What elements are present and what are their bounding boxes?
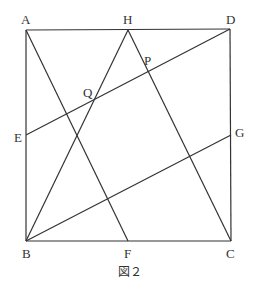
label-a: A xyxy=(21,12,31,27)
geometry-figure: A H D P Q E G B F C 図２ xyxy=(0,0,255,293)
square-abcd xyxy=(26,29,231,241)
label-c: C xyxy=(226,246,235,261)
label-q: Q xyxy=(83,85,93,100)
figure-caption: 図２ xyxy=(118,265,142,279)
label-b: B xyxy=(22,246,31,261)
label-d: D xyxy=(226,12,235,27)
label-p: P xyxy=(144,53,151,68)
label-e: E xyxy=(14,130,22,145)
label-f: F xyxy=(124,246,131,261)
label-g: G xyxy=(235,125,244,140)
segment-ed xyxy=(26,29,230,135)
segment-bg xyxy=(26,135,231,241)
label-h: H xyxy=(123,12,132,27)
segment-ad xyxy=(26,29,230,30)
